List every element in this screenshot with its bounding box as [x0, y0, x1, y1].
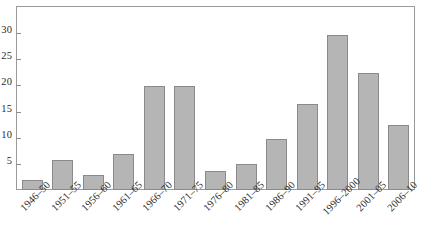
bar-chart: 51015202530 1946–501951–551956–601961–65… — [0, 0, 424, 250]
bar — [358, 73, 379, 190]
x-axis-tick: 1976–80 — [200, 191, 231, 250]
bar — [297, 104, 318, 190]
bar — [174, 86, 195, 190]
y-axis-tick-label: 15 — [1, 104, 12, 115]
x-axis-tick: 1951–55 — [48, 191, 79, 250]
x-axis-tick: 1986–90 — [261, 191, 292, 250]
x-axis-tick: 1956–60 — [78, 191, 109, 250]
y-axis: 51015202530 — [0, 0, 16, 190]
bar — [327, 35, 348, 190]
bar — [266, 139, 287, 190]
x-axis: 1946–501951–551956–601961–651966–701971–… — [17, 191, 414, 250]
x-axis-tick: 2001–05 — [353, 191, 384, 250]
x-axis-tick: 1961–65 — [109, 191, 140, 250]
bars-container — [17, 7, 414, 190]
y-axis-tick-label: 30 — [1, 25, 12, 36]
y-axis-tick-label: 25 — [1, 51, 12, 62]
y-axis-tick-label: 10 — [1, 130, 12, 141]
x-axis-tick: 2006–10 — [383, 191, 414, 250]
x-axis-tick: 1991–95 — [292, 191, 323, 250]
x-axis-tick: 1971–75 — [170, 191, 201, 250]
x-axis-tick: 1966–70 — [139, 191, 170, 250]
x-axis-tick: 1996–2000 — [322, 191, 353, 250]
bar — [388, 125, 409, 190]
x-axis-tick: 1946–50 — [17, 191, 48, 250]
bar — [144, 86, 165, 190]
x-axis-tick: 1981–85 — [231, 191, 262, 250]
y-axis-tick-label: 20 — [1, 77, 12, 88]
y-axis-tick-label: 5 — [7, 156, 12, 167]
